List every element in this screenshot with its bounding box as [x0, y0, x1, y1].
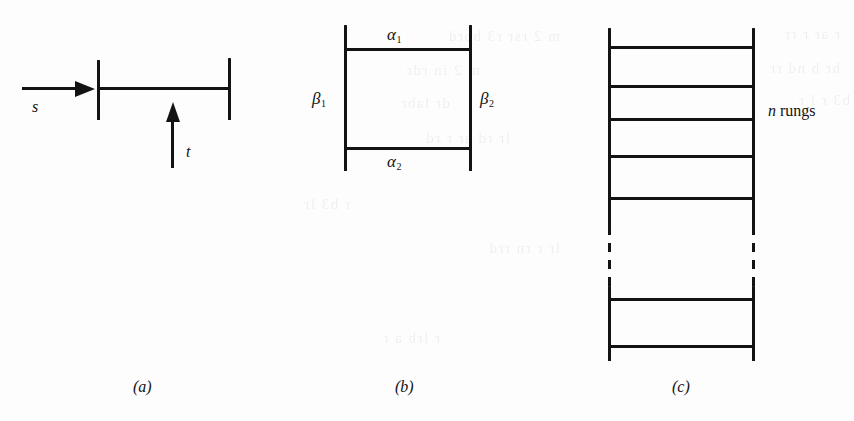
label-n-rungs-word: rungs [780, 102, 816, 119]
caption-b: (b) [395, 378, 414, 396]
label-beta-1-base: β [312, 89, 320, 108]
arrow-t-head [166, 102, 180, 122]
panel-c-left-rail-dashed [608, 226, 611, 286]
label-beta-2: β2 [480, 89, 493, 109]
panel-c-rung [608, 85, 755, 88]
arrow-s-shaft [22, 87, 77, 90]
panel-c-right-rail-dashed [752, 226, 755, 286]
caption-c: (c) [672, 378, 690, 396]
panel-c-rung [608, 46, 755, 49]
panel-c-rung [608, 118, 755, 121]
label-n-rungs: n rungs [768, 102, 816, 120]
label-alpha-1-sub: 1 [396, 34, 401, 45]
panel-b: β1 α1 α2 β2 [300, 0, 530, 200]
label-beta-2-base: β [480, 89, 488, 108]
panel-c-rung [608, 298, 755, 301]
panel-b-rung-alpha-1 [344, 48, 472, 51]
caption-a: (a) [133, 378, 152, 396]
figure-canvas: m 2 rsr r3 bord m 2 in rdr dr labr lr rd… [0, 0, 854, 421]
arrow-t-shaft [171, 120, 174, 168]
label-s: s [32, 98, 38, 116]
label-beta-1: β1 [312, 89, 325, 109]
ghost-line: r lrb a r [180, 330, 440, 347]
panel-a-right-rail [228, 58, 231, 120]
panel-a-rung [97, 87, 231, 90]
ghost-line: lr r rn rrd [260, 240, 560, 257]
panel-a: s t [0, 0, 290, 240]
label-alpha-1-base: α [387, 25, 396, 44]
arrow-s-head [75, 81, 95, 97]
label-alpha-2-base: α [387, 152, 396, 171]
label-n-rungs-symbol: n [768, 102, 776, 119]
panel-c-rung [608, 345, 755, 348]
label-beta-2-sub: 2 [489, 98, 494, 109]
panel-c-rung [608, 155, 755, 158]
label-alpha-2-sub: 2 [396, 161, 401, 172]
label-alpha-1: α1 [387, 25, 401, 45]
label-alpha-2: α2 [387, 152, 401, 172]
label-beta-1-sub: 1 [321, 98, 326, 109]
label-t: t [186, 143, 190, 161]
panel-c: n rungs [595, 0, 854, 380]
panel-b-rung-alpha-2 [344, 147, 472, 150]
panel-c-rung [608, 197, 755, 200]
panel-a-left-rail [97, 60, 100, 120]
